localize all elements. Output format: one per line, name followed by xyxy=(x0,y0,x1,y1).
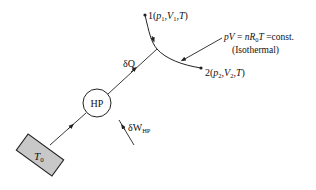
state2-label: 2(p2,V2,T) xyxy=(205,67,245,79)
heat-in-arrow-icon xyxy=(68,126,72,130)
isothermal-curve xyxy=(145,15,201,68)
state1-point xyxy=(143,13,146,16)
process-equation: pV = nR0T =const. xyxy=(223,32,294,43)
state1-label: 1(p1,V1,T) xyxy=(148,10,188,22)
work-input-arrow-icon xyxy=(123,126,126,130)
heat-out-line xyxy=(108,49,157,94)
heat-flow-label: δQ xyxy=(123,58,136,69)
equation-pointer-arrow xyxy=(183,38,222,60)
isothermal-heat-pump-diagram: T0 HP δQ δWHP 1(p1,V1,T) 2(p2,V2,T) pV =… xyxy=(0,0,316,190)
curve-arrow-icon xyxy=(152,36,154,40)
work-input-label: δWHP xyxy=(128,122,151,134)
state2-point xyxy=(199,66,202,69)
heat-pump-label: HP xyxy=(91,98,104,109)
process-type-label: (Isothermal) xyxy=(232,45,279,56)
